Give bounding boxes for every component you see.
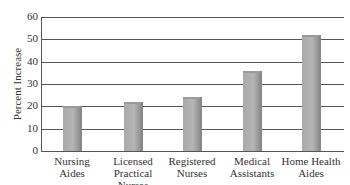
y-tick-label: 10 [22, 122, 38, 134]
bar-chart: Percent Increase 0102030405060 NursingAi… [0, 0, 350, 185]
bar [63, 106, 80, 151]
bar [302, 35, 319, 151]
y-tick-label: 20 [22, 99, 38, 111]
x-tick-label: Home HealthAides [271, 155, 350, 179]
bar [243, 71, 260, 151]
y-axis-line [41, 17, 42, 152]
y-tick-label: 40 [22, 55, 38, 67]
gridline [41, 84, 344, 85]
y-tick-label: 30 [22, 77, 38, 89]
gridline [41, 17, 344, 18]
x-axis-line [41, 151, 344, 152]
bar [124, 102, 141, 151]
gridline [41, 39, 344, 40]
bar [183, 97, 200, 151]
y-tick-label: 60 [22, 10, 38, 22]
gridline [41, 62, 344, 63]
y-tick-label: 50 [22, 32, 38, 44]
